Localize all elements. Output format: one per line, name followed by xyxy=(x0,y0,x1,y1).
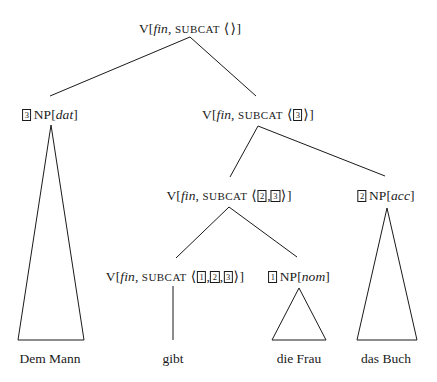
node-np-acc: 2NP[acc] xyxy=(357,189,414,203)
node-np-nom-case: nom xyxy=(302,269,326,284)
tag-1-subcat123-list: 1 xyxy=(197,271,206,284)
node-v-subcat3-feature-fin: fin xyxy=(217,107,232,122)
edge-root-to-v-subcat3 xyxy=(190,37,256,96)
tag-2-np-acc: 2 xyxy=(358,190,367,203)
node-v-subcat123-category: V xyxy=(106,269,116,284)
node-np-dat-case: dat xyxy=(56,107,74,122)
tag-3-subcat3-list: 3 xyxy=(293,109,302,122)
triangle-das-buch xyxy=(357,208,417,340)
node-v-subcat123-feature-fin: fin xyxy=(120,269,135,284)
node-np-dat: 3NP[dat] xyxy=(22,108,78,122)
edge-v-subcat3-to-np-acc xyxy=(258,126,385,176)
tag-2-subcat123-list: 2 xyxy=(210,271,219,284)
tag-3-subcat123-list: 3 xyxy=(224,271,233,284)
terminal-die-frau: die Frau xyxy=(277,352,322,366)
node-root-close-bracket: ] xyxy=(236,21,241,36)
triangle-die-frau xyxy=(272,288,326,340)
node-np-acc-category: NP xyxy=(369,188,386,203)
node-root: V[fin, SUBCAT ⟨⟩] xyxy=(139,22,241,36)
edge-root-to-np-dat xyxy=(50,37,190,96)
node-np-nom: 1NP[nom] xyxy=(268,270,330,284)
node-root-category: V xyxy=(139,21,149,36)
node-root-open-angle: ⟨ xyxy=(223,21,230,36)
node-v-subcat123-feature-subcat: SUBCAT xyxy=(142,271,187,283)
terminal-gibt: gibt xyxy=(162,352,183,366)
node-np-dat-category: NP xyxy=(34,107,51,122)
tag-3-subcat23-list: 3 xyxy=(271,190,280,203)
tag-1-np-nom: 1 xyxy=(268,271,277,284)
node-v-subcat123-close-bracket: ] xyxy=(240,269,245,284)
node-v-subcat123-open-angle: ⟨ xyxy=(190,269,197,284)
node-v-subcat3-category: V xyxy=(202,107,212,122)
node-v-subcat123: V[fin, SUBCAT ⟨1,2,3⟩] xyxy=(106,270,244,284)
node-v-subcat3-feature-subcat: SUBCAT xyxy=(238,109,283,121)
node-v-subcat23-feature-fin: fin xyxy=(181,188,196,203)
tag-3-np-dat: 3 xyxy=(22,109,31,122)
node-np-acc-close-bracket: ] xyxy=(410,188,415,203)
node-v-subcat23-comma: , xyxy=(196,188,199,203)
node-root-feature-fin: fin xyxy=(153,21,168,36)
terminal-dem-mann: Dem Mann xyxy=(19,352,80,366)
node-root-comma: , xyxy=(168,21,171,36)
triangle-dem-mann xyxy=(18,125,84,340)
node-root-feature-subcat: SUBCAT xyxy=(175,23,220,35)
node-v-subcat23-feature-subcat: SUBCAT xyxy=(202,190,247,202)
node-v-subcat3-open-angle: ⟨ xyxy=(286,107,293,122)
syntax-tree-diagram: V[fin, SUBCAT ⟨⟩] 3NP[dat] V[fin, SUBCAT… xyxy=(0,0,437,382)
node-v-subcat3: V[fin, SUBCAT ⟨3⟩] xyxy=(202,108,314,122)
tag-2-subcat23-list: 2 xyxy=(258,190,267,203)
node-v-subcat3-close-bracket: ] xyxy=(309,107,314,122)
node-v-subcat123-comma: , xyxy=(135,269,138,284)
node-np-acc-case: acc xyxy=(391,188,410,203)
terminal-das-buch: das Buch xyxy=(361,352,411,366)
node-v-subcat23-category: V xyxy=(166,188,176,203)
edge-v-subcat23-to-np-nom xyxy=(229,207,297,257)
node-np-dat-close-bracket: ] xyxy=(73,107,78,122)
edge-v-subcat23-to-v-subcat123 xyxy=(176,207,229,258)
node-v-subcat23: V[fin, SUBCAT ⟨2,3⟩] xyxy=(166,189,291,203)
node-np-nom-category: NP xyxy=(280,269,297,284)
node-np-nom-close-bracket: ] xyxy=(325,269,330,284)
node-v-subcat23-open-angle: ⟨ xyxy=(251,188,258,203)
node-v-subcat23-close-bracket: ] xyxy=(287,188,292,203)
edge-v-subcat3-to-v-subcat23 xyxy=(230,126,258,177)
node-v-subcat3-comma: , xyxy=(231,107,234,122)
